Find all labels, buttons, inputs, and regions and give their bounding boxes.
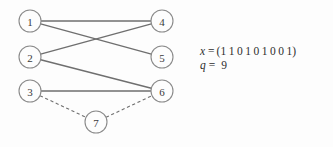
graph-diagram: 1234567 <box>0 0 333 147</box>
x-bit-1: 1 <box>229 45 237 57</box>
x-equals-sign: = <box>205 45 217 57</box>
edge-7-6 <box>106 96 152 118</box>
x-bit-5: 1 <box>262 45 270 57</box>
node-label-7: 7 <box>93 117 99 129</box>
node-label-6: 6 <box>159 86 165 98</box>
node-label-2: 2 <box>27 52 33 64</box>
node-label-4: 4 <box>159 16 165 28</box>
x-bit-vector: 110101001 <box>220 45 292 57</box>
nodes-layer: 1234567 <box>19 10 173 133</box>
x-close-paren: ) <box>292 45 296 57</box>
node-2[interactable]: 2 <box>19 46 41 68</box>
edges-layer <box>40 21 152 117</box>
q-equals-sign: = <box>206 59 218 71</box>
q-equation-line: q=9 <box>200 58 296 72</box>
edge-2-6 <box>41 60 152 89</box>
annotation-block: x=(110101001) q=9 <box>200 44 296 72</box>
node-label-5: 5 <box>159 52 165 64</box>
edge-3-7 <box>40 96 86 118</box>
x-equation-line: x=(110101001) <box>200 44 296 58</box>
node-label-1: 1 <box>27 16 33 28</box>
node-5[interactable]: 5 <box>151 46 173 68</box>
q-value: 9 <box>217 59 227 71</box>
node-7[interactable]: 7 <box>85 111 107 133</box>
node-3[interactable]: 3 <box>19 80 41 102</box>
figure-container: 1234567 x=(110101001) q=9 <box>0 0 333 147</box>
x-bit-4: 0 <box>253 45 261 57</box>
node-1[interactable]: 1 <box>19 10 41 32</box>
node-4[interactable]: 4 <box>151 10 173 32</box>
node-label-3: 3 <box>27 86 33 98</box>
node-6[interactable]: 6 <box>151 80 173 102</box>
x-bit-2: 0 <box>237 45 245 57</box>
q-variable-label: q <box>200 59 206 71</box>
x-bit-0: 1 <box>220 45 228 57</box>
x-bit-6: 0 <box>270 45 278 57</box>
